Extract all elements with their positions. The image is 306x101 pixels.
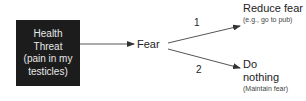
reduce-fear-label: Reduce fear <box>243 2 303 14</box>
do-nothing-line-1: Do <box>243 58 279 71</box>
reduce-fear-sublabel: (e.g., go to pub) <box>243 16 292 23</box>
branch-1-number: 1 <box>194 17 200 28</box>
edge-fear-to-nothing <box>168 49 240 68</box>
edge-fear-to-reduce <box>168 26 240 43</box>
do-nothing-line-2: nothing <box>243 71 279 84</box>
fear-node: Fear <box>137 38 160 50</box>
branch-2-number: 2 <box>196 64 202 75</box>
do-nothing-sublabel: (Maintain fear) <box>243 85 288 92</box>
do-nothing-label: Do nothing <box>243 58 279 84</box>
